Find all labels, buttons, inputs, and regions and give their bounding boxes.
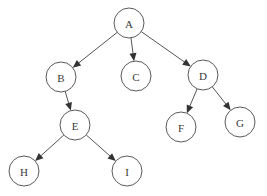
edge-line bbox=[189, 89, 197, 109]
arrowhead-icon bbox=[182, 59, 191, 66]
edge-a-d bbox=[141, 32, 190, 67]
node-f: F bbox=[166, 112, 196, 142]
edge-line bbox=[86, 135, 112, 158]
edge-d-f bbox=[187, 89, 197, 113]
node-d: D bbox=[188, 60, 218, 90]
arrowhead-icon bbox=[223, 102, 231, 110]
edge-line bbox=[77, 32, 118, 64]
edge-line bbox=[141, 32, 186, 64]
node-label: I bbox=[125, 166, 129, 178]
node-b: B bbox=[46, 62, 76, 92]
node-g: G bbox=[225, 107, 255, 137]
edge-e-i bbox=[86, 135, 116, 161]
edge-a-c bbox=[130, 38, 137, 61]
node-label: D bbox=[199, 70, 207, 82]
tree-diagram: ABCDEFGHI bbox=[0, 0, 267, 196]
node-e: E bbox=[60, 110, 90, 140]
edge-line bbox=[212, 87, 227, 106]
arrowhead-icon bbox=[73, 60, 81, 68]
edge-b-e bbox=[65, 91, 72, 110]
node-label: E bbox=[72, 120, 79, 132]
node-label: A bbox=[125, 18, 133, 30]
node-c: C bbox=[121, 61, 151, 91]
edge-a-b bbox=[73, 32, 118, 67]
edge-d-g bbox=[212, 87, 230, 110]
edge-line bbox=[39, 135, 64, 158]
node-label: B bbox=[57, 72, 64, 84]
arrowhead-icon bbox=[130, 53, 137, 61]
arrowhead-icon bbox=[65, 102, 72, 111]
node-h: H bbox=[9, 156, 39, 186]
node-a: A bbox=[114, 8, 144, 38]
node-i: I bbox=[112, 156, 142, 186]
node-label: G bbox=[236, 117, 244, 129]
node-label: H bbox=[20, 166, 28, 178]
node-label: F bbox=[178, 122, 184, 134]
edges-group bbox=[35, 32, 231, 161]
edge-e-h bbox=[35, 135, 64, 161]
node-label: C bbox=[132, 71, 139, 83]
nodes-group: ABCDEFGHI bbox=[9, 8, 255, 186]
